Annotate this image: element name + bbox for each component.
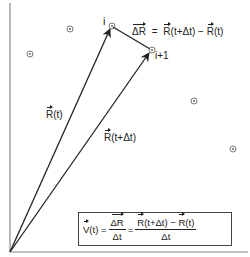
fraction-delta: ΔR Δt	[109, 217, 126, 242]
velocity-formula-box: V(t) = ΔR Δt = R(t+Δt) − R(t) Δt	[78, 212, 232, 246]
delta-r-symbol: ΔR	[132, 27, 146, 37]
point-i-label: i	[103, 16, 105, 27]
fraction-difference: R(t+Δt) − R(t) Δt	[135, 217, 196, 242]
point-i1-label: i+1	[155, 51, 169, 61]
delta-r-equation: ΔR = R(t+Δt) − R(t)	[132, 27, 223, 37]
velocity-vector-diagram: i i+1 ΔR = R(t+Δt) − R(t) R(t) R(t+Δt) V…	[0, 0, 250, 257]
r-t-dt-label: R(t+Δt)	[104, 133, 136, 143]
r-t-label: R(t)	[46, 110, 63, 120]
velocity-symbol: V	[83, 224, 89, 235]
